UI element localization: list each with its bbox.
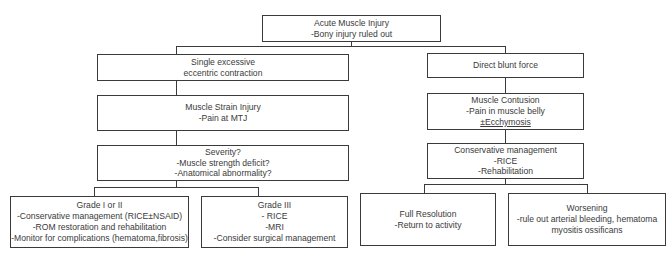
node-text: -ROM restoration and rehabilitation	[33, 222, 167, 233]
node-text: myositis ossificans	[551, 225, 622, 236]
node-text: ±Ecchymosis	[480, 117, 531, 128]
node-text: Direct blunt force	[473, 60, 538, 71]
connector	[176, 46, 177, 54]
node-text: -Conservative management (RICE±NSAID)	[17, 211, 182, 222]
node-text: -Pain in muscle belly	[466, 106, 545, 117]
node-text: Grade III	[258, 200, 291, 211]
root-node-acute-muscle-injury: Acute Muscle Injury -Bony injury ruled o…	[262, 15, 441, 42]
node-text: Full Resolution	[400, 209, 457, 220]
node-grade-3: Grade III - RICE -MRI -Consider surgical…	[201, 196, 348, 248]
connector	[94, 187, 95, 196]
node-text: Severity?	[205, 147, 241, 158]
node-worsening: Worsening -rule out arterial bleeding, h…	[508, 193, 666, 246]
connector	[176, 130, 177, 145]
node-text: -RICE	[494, 156, 517, 167]
node-severity: Severity? -Muscle strength deficit? -Ana…	[97, 145, 349, 181]
node-text: Grade I or II	[77, 200, 123, 211]
node-text: -rule out arterial bleeding, hematoma	[517, 214, 657, 225]
node-text: - RICE	[262, 211, 288, 222]
node-muscle-contusion: Muscle Contusion -Pain in muscle belly ±…	[427, 93, 584, 130]
node-full-resolution: Full Resolution -Return to activity	[360, 193, 496, 246]
node-muscle-strain-injury: Muscle Strain Injury -Pain at MTJ	[97, 95, 349, 131]
connector	[505, 129, 506, 143]
node-text: -MRI	[265, 222, 284, 233]
connector	[424, 184, 588, 185]
node-conservative-management: Conservative management -RICE -Rehabilit…	[427, 143, 584, 179]
connector	[176, 180, 177, 187]
node-text: -Monitor for complications (hematoma,fib…	[11, 233, 188, 244]
connector	[258, 187, 259, 196]
connector	[505, 46, 506, 53]
node-text: Worsening	[567, 203, 608, 214]
node-text: Acute Muscle Injury	[314, 18, 389, 29]
connector	[94, 187, 259, 188]
connector	[505, 77, 506, 93]
node-text: eccentric contraction	[184, 68, 263, 79]
node-text: Single excessive	[191, 57, 255, 68]
node-text: -Return to activity	[395, 220, 462, 231]
connector	[176, 46, 506, 47]
node-text: -Pain at MTJ	[199, 113, 248, 124]
node-text: Conservative management	[454, 145, 557, 156]
node-text: -Bony injury ruled out	[311, 29, 392, 40]
node-text: Muscle Strain Injury	[185, 102, 260, 113]
node-text: -Consider surgical management	[214, 233, 336, 244]
node-grade-1-or-2: Grade I or II -Conservative management (…	[10, 196, 189, 248]
node-single-excessive-eccentric-contraction: Single excessive eccentric contraction	[97, 54, 349, 81]
connector	[424, 184, 425, 193]
node-text: -Anatomical abnormality?	[175, 168, 272, 179]
node-direct-blunt-force: Direct blunt force	[427, 53, 584, 78]
node-text: -Rehabilitation	[478, 166, 533, 177]
connector	[587, 184, 588, 193]
node-text: -Muscle strength deficit?	[176, 158, 269, 169]
connector	[176, 80, 177, 95]
node-text: Muscle Contusion	[471, 95, 539, 106]
